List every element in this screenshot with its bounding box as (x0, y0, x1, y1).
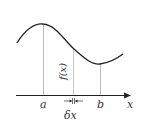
function-curve (17, 24, 123, 64)
delta-x-marker (64, 98, 83, 104)
label-a: a (40, 98, 47, 111)
label-delta-x: δx (64, 109, 78, 122)
integral-diagram: a b x δx f(x) (0, 0, 142, 127)
label-fx: f(x) (57, 63, 68, 81)
label-b: b (97, 98, 104, 111)
label-x-axis: x (127, 98, 134, 111)
